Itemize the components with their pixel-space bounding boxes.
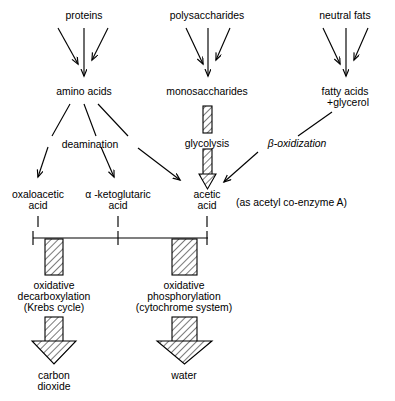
- process-label-glycolysis: glycolysis: [185, 138, 229, 149]
- cytochrome-arrowhead: [157, 341, 212, 364]
- arrow-polysaccharides-left: [186, 28, 203, 64]
- metabolic-pathway-diagram: proteins amino acids polysaccharides mon…: [0, 0, 395, 401]
- process-label-beta-oxidization: β-oxidization: [267, 138, 327, 149]
- line-beta-oxidization-upper: [298, 112, 332, 136]
- node-label-neutral-fats: neutral fats: [319, 10, 370, 21]
- node-label-monosaccharides: monosaccharides: [166, 86, 247, 97]
- line-deamination-right-upper: [98, 104, 128, 136]
- process-label-krebs-line2: decarboxylation: [18, 291, 91, 302]
- node-label-acetic-line2: acid: [197, 200, 216, 211]
- glycolysis-shaft-lower: [203, 149, 212, 176]
- cytochrome-shaft-upper: [172, 239, 197, 275]
- node-label-amino-acids: amino acids: [56, 86, 111, 97]
- glycolysis-shaft-upper: [203, 106, 212, 133]
- arrow-deamination-to-oxaloacetic: [38, 147, 48, 177]
- node-label-polysaccharides: polysaccharides: [170, 10, 245, 21]
- node-label-fatty-acids: fatty acids: [322, 86, 369, 97]
- process-label-krebs-line1: oxidative: [33, 280, 74, 291]
- process-label-deamination: deamination: [62, 139, 119, 150]
- node-label-oxaloacetic-line1: oxaloacetic: [12, 189, 64, 200]
- node-label-carbon-line2: dioxide: [38, 381, 71, 392]
- krebs-arrowhead: [32, 341, 76, 364]
- process-label-cytochrome-line3: (cytochrome system): [136, 302, 232, 313]
- arrow-proteins-left: [58, 28, 78, 64]
- node-label-glycerol: +glycerol: [327, 97, 369, 108]
- node-label-oxaloacetic-line2: acid: [28, 200, 47, 211]
- deamination-group: deamination: [38, 104, 180, 180]
- node-label-ketoglutaric-line1: α -ketoglutaric: [85, 189, 151, 200]
- proteins-group: proteins amino acids: [56, 10, 111, 97]
- arrow-polysaccharides-right: [216, 28, 230, 60]
- beta-oxidization-group: β-oxidization: [224, 112, 332, 182]
- glycolysis-group: glycolysis: [185, 106, 229, 189]
- process-label-krebs-line3: (Krebs cycle): [24, 302, 85, 313]
- arrow-deamination-to-acetic: [138, 148, 180, 180]
- intermediate-acids-group: oxaloacetic acid α -ketoglutaric acid ac…: [12, 189, 347, 211]
- node-label-acetic-line1: acetic: [193, 189, 220, 200]
- process-label-cytochrome-line1: oxidative: [163, 280, 204, 291]
- polysaccharides-group: polysaccharides monosaccharides: [166, 10, 247, 97]
- arrow-fats-right: [354, 28, 368, 60]
- arrow-beta-oxidization-to-acetic: [224, 152, 258, 182]
- node-label-water: water: [170, 370, 197, 381]
- cytochrome-arrow-group: oxidative phosphorylation (cytochrome sy…: [136, 239, 232, 381]
- process-label-cytochrome-line2: phosphorylation: [147, 291, 221, 302]
- node-label-ketoglutaric-line2: acid: [108, 200, 127, 211]
- line-deamination-mid-upper: [84, 104, 96, 136]
- arrow-fats-left: [323, 28, 340, 64]
- annotation-acetyl-coenzyme-a: (as acetyl co-enzyme A): [236, 197, 347, 208]
- pathway-svg-canvas: proteins amino acids polysaccharides mon…: [0, 0, 395, 401]
- line-deamination-left-upper: [52, 104, 70, 136]
- glycolysis-arrowhead: [199, 174, 216, 189]
- krebs-shaft-upper: [45, 239, 63, 275]
- arrow-proteins-right: [92, 28, 108, 60]
- neutral-fats-group: neutral fats fatty acids +glycerol: [319, 10, 370, 108]
- krebs-cycle-arrow-group: oxidative decarboxylation (Krebs cycle) …: [18, 239, 91, 392]
- arrow-deamination-to-ketoglutaric: [101, 147, 114, 177]
- node-label-proteins: proteins: [66, 10, 103, 21]
- node-label-carbon-line1: carbon: [38, 370, 70, 381]
